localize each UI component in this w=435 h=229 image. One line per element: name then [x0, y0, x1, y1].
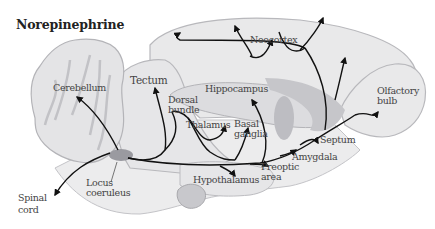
label-preoptic-area-2: area: [261, 172, 281, 182]
label-spinal-cord-1: Spinal: [18, 193, 47, 203]
label-septum: Septum: [320, 135, 355, 145]
brain-sagittal-diagram: [0, 0, 435, 229]
basal-ganglia-shape: [274, 96, 294, 140]
label-dorsal-bundle-2: bundle: [168, 105, 199, 115]
label-hippocampus: Hippocampus: [205, 84, 268, 94]
label-hypothalamus: Hypothalamus: [193, 175, 259, 185]
label-locus-coeruleus-2: coeruleus: [86, 188, 130, 198]
label-spinal-cord-2: cord: [18, 205, 38, 215]
label-thalamus: Thalamus: [186, 120, 230, 130]
pituitary-shape: [177, 184, 205, 208]
label-neocortex: Neocortex: [250, 35, 297, 45]
label-olfactory-bulb-2: bulb: [377, 96, 397, 106]
label-basal-ganglia-2: ganglia: [234, 129, 268, 139]
label-cerebellum: Cerebellum: [53, 83, 106, 93]
label-tectum: Tectum: [130, 75, 167, 85]
locus-coeruleus-nucleus: [109, 149, 133, 161]
